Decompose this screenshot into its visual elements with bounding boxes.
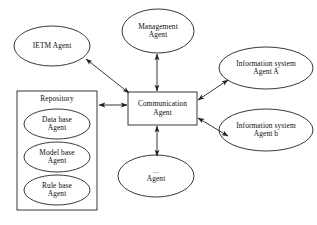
data-base-agent-shape [24,109,90,139]
information-system-agent-a-shape [219,47,313,89]
management-agent-shape [122,9,194,53]
connector-communication-ietm [86,59,129,93]
connector-communication-information-system-a [198,80,228,100]
rule-base-agent-shape [24,175,90,205]
ellipsis-agent-shape [118,155,194,197]
model-base-agent-shape [24,142,90,172]
information-system-agent-b-shape [219,109,313,151]
agent-architecture-diagram: IETM Agent Management Agent Communicatio… [0,0,317,225]
diagram-canvas [0,0,317,225]
ietm-agent-shape [14,26,90,66]
communication-agent-shape [128,92,197,125]
